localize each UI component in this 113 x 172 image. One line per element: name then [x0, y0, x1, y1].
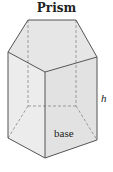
- prism-figure: h base: [0, 0, 113, 172]
- base-label: base: [54, 127, 74, 139]
- height-label: h: [101, 92, 107, 104]
